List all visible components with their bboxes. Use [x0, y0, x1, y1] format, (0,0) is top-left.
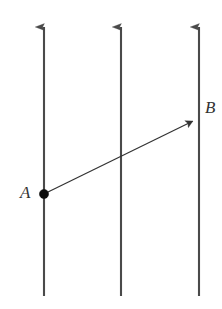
- point-b-label: B: [205, 99, 215, 116]
- geometry-figure: A B: [0, 0, 222, 309]
- figure-background: [0, 0, 222, 309]
- point-a-marker: [39, 189, 48, 198]
- diagram-canvas: [0, 0, 222, 309]
- point-a-label: A: [20, 184, 30, 201]
